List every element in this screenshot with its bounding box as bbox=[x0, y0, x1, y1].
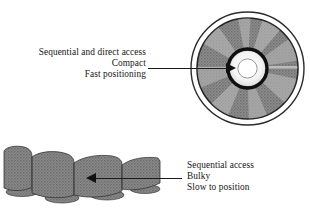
cd-caption-line-1: Sequential and direct access bbox=[0, 47, 146, 58]
tape-caption: Sequential access Bulky Slow to position bbox=[187, 160, 307, 193]
cd-leader-line bbox=[148, 68, 232, 69]
cd-leader-arrow-icon bbox=[226, 63, 236, 73]
cd-caption-line-3: Fast positioning bbox=[0, 69, 146, 80]
tape-caption-line-2: Bulky bbox=[187, 171, 307, 182]
fanfold-tape-graphic bbox=[2, 139, 162, 209]
figure-canvas: Sequential and direct access Compact Fas… bbox=[0, 0, 310, 211]
cd-caption-line-2: Compact bbox=[0, 58, 146, 69]
tape-leader-line bbox=[92, 178, 182, 179]
tape-panel-2 bbox=[32, 152, 74, 198]
tape-leader-arrow-icon bbox=[86, 173, 96, 183]
tape-caption-line-1: Sequential access bbox=[187, 160, 307, 171]
cd-caption: Sequential and direct access Compact Fas… bbox=[0, 47, 146, 80]
tape-body bbox=[4, 146, 32, 190]
tape-caption-line-3: Slow to position bbox=[187, 182, 307, 193]
disc-hub-inner-circle bbox=[238, 59, 257, 78]
tape-panel-3 bbox=[74, 155, 122, 197]
tape-panel-4 bbox=[122, 157, 160, 189]
